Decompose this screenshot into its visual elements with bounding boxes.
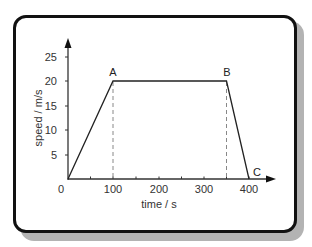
point-label-b: B bbox=[223, 66, 230, 78]
x-axis-title: time / s bbox=[141, 198, 177, 210]
point-label-c: C bbox=[253, 166, 261, 178]
y-tick-15: 15 bbox=[45, 100, 57, 112]
point-label-a: A bbox=[109, 66, 117, 78]
x-axis bbox=[68, 176, 276, 183]
y-axis-title: speed / m/s bbox=[32, 89, 44, 146]
y-axis bbox=[65, 38, 72, 180]
y-tick-25: 25 bbox=[45, 51, 57, 63]
x-tick-100: 100 bbox=[104, 183, 122, 195]
speed-time-graph: 25 20 15 10 5 0 100 200 300 400 time / s… bbox=[0, 0, 312, 247]
y-tick-20: 20 bbox=[45, 75, 57, 87]
origin-label: 0 bbox=[58, 183, 64, 195]
x-tick-400: 400 bbox=[240, 183, 258, 195]
y-axis-arrow-icon bbox=[65, 38, 72, 48]
x-tick-300: 300 bbox=[195, 183, 213, 195]
x-axis-arrow-icon bbox=[266, 176, 276, 183]
speed-line bbox=[68, 81, 249, 179]
y-tick-10: 10 bbox=[45, 124, 57, 136]
x-tick-200: 200 bbox=[150, 183, 168, 195]
y-tick-5: 5 bbox=[51, 149, 57, 161]
